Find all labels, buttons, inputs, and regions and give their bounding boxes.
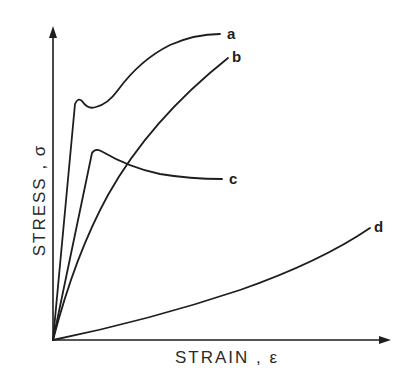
curve-c-label: c xyxy=(229,171,237,186)
curve-d-label: d xyxy=(374,219,383,234)
curve-d xyxy=(53,228,370,340)
curve-b-label: b xyxy=(232,49,241,64)
x-axis-label: STRAIN , ε xyxy=(175,348,279,368)
curve-c xyxy=(53,150,222,340)
curve-a xyxy=(53,34,220,340)
curve-a-label: a xyxy=(227,26,235,41)
plot-canvas xyxy=(0,0,404,386)
y-axis-label: STRESS , σ xyxy=(30,120,50,280)
stress-strain-diagram: a b c d STRAIN , ε STRESS , σ xyxy=(0,0,404,386)
x-axis-arrow-icon xyxy=(379,336,391,344)
y-axis-arrow-icon xyxy=(49,26,57,38)
